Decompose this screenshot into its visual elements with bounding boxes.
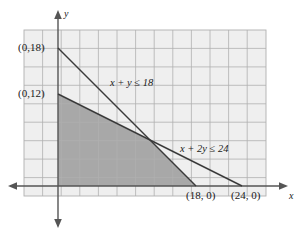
label-y-axis: y	[64, 9, 68, 19]
label-x-axis: x	[289, 191, 293, 201]
label-point-0-12: (0,12)	[18, 88, 45, 99]
label-point-18-0: (18, 0)	[186, 190, 215, 201]
label-point-0-18: (0,18)	[18, 42, 45, 53]
label-inequality-1: x + y ≤ 18	[110, 78, 153, 89]
graph-figure: (0,18) (0,12) (18, 0) (24, 0) x + y ≤ 18…	[0, 0, 303, 231]
label-inequality-2: x + 2y ≤ 24	[180, 144, 228, 155]
label-point-24-0: (24, 0)	[231, 190, 260, 201]
